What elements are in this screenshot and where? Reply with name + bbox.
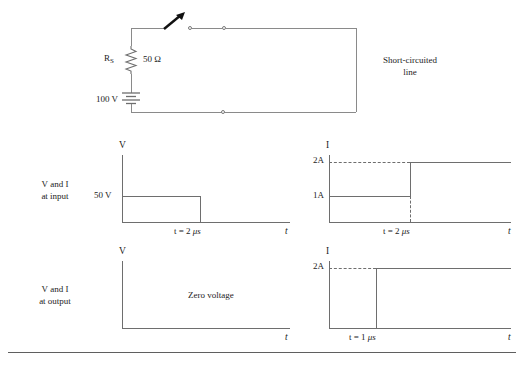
plot-output-current-x-axis [329,328,511,329]
plot-output-current-trace-high [376,268,511,269]
plot-output-current-y-axis [329,261,330,328]
plot-output-current-y-label: I [326,246,329,257]
figure-page: RS 50 Ω 100 V Short-circuited line V and… [0,0,524,367]
footer-divider [8,352,516,353]
plot-output-current-trace-rise [376,268,377,328]
plot-output-current-x-annotation: t = 1 μs [349,332,376,343]
plot-output-current: I t 2A t = 1 μs [0,0,524,367]
plot-output-current-ytick-0: 2A [313,261,324,272]
plot-output-current-x-label: t [508,332,511,343]
plot-output-current-ref-2a [329,268,376,269]
